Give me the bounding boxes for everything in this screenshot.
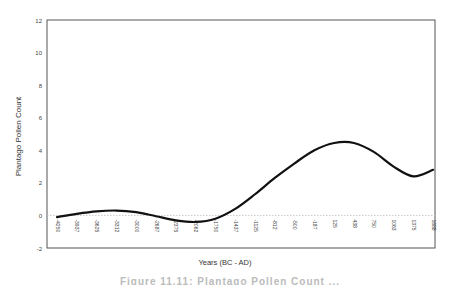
x-tick-label: -3625 [94, 219, 100, 232]
x-tick-label: -500 [292, 219, 298, 229]
y-tick-label: 4 [39, 148, 43, 154]
y-tick-label: 10 [35, 50, 42, 56]
y-tick-label: -2 [37, 246, 43, 252]
x-tick-label: -3937 [74, 219, 80, 232]
x-tick-label: -4250 [55, 219, 61, 232]
x-tick-label: -2687 [154, 219, 160, 232]
x-tick-label: -1750 [213, 219, 219, 232]
figure-caption: Figure 11.11: Plantago Pollen Count ... [20, 276, 440, 285]
x-tick-label: -3312 [114, 219, 120, 232]
x-axis-label: Years (BC - AD) [0, 258, 450, 267]
x-tick-label: -812 [272, 219, 278, 229]
x-tick-label: 1063 [391, 219, 397, 230]
x-tick-label: 438 [352, 219, 358, 228]
x-tick-label: -187 [312, 219, 318, 229]
x-tick-label: 1688 [431, 219, 437, 230]
plot-frame [47, 20, 435, 248]
y-tick-label: 6 [39, 115, 43, 121]
data-line [57, 142, 433, 222]
x-tick-label: -1125 [253, 219, 259, 232]
x-tick-label: 1375 [411, 219, 417, 230]
x-axis-ticks: -4250-3937-3625-3312-3000-2687-2375-2062… [55, 219, 437, 232]
y-axis-label: Plantago Pollen Count [14, 77, 23, 197]
y-tick-label: 2 [39, 180, 43, 186]
x-tick-label: -3000 [134, 219, 140, 232]
y-tick-label: 12 [35, 18, 42, 24]
x-tick-label: 125 [332, 219, 338, 228]
y-tick-label: 0 [39, 213, 43, 219]
line-chart: -2024681012 -4250-3937-3625-3312-3000-26… [0, 0, 450, 285]
x-tick-label: 750 [371, 219, 377, 228]
y-axis-ticks: -2024681012 [35, 18, 42, 252]
x-tick-label: -1437 [233, 219, 239, 232]
y-tick-label: 8 [39, 83, 43, 89]
